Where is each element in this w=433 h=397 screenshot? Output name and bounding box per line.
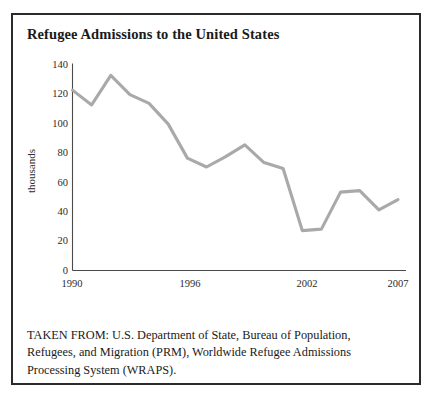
x-tick-label: 1996	[180, 278, 201, 289]
source-attribution: TAKEN FROM: U.S. Department of State, Bu…	[27, 327, 409, 379]
source-line: TAKEN FROM: U.S. Department of State, Bu…	[27, 327, 409, 344]
source-line: Refugees, and Migration (PRM), Worldwide…	[27, 344, 409, 361]
chart-svg: 140 120 100 80 60 40 20 0 thousands 1990…	[13, 53, 419, 318]
y-axis-title: thousands	[25, 149, 37, 193]
y-tick-label: 100	[52, 118, 68, 129]
y-tick-label: 60	[58, 177, 69, 188]
y-tick-label: 40	[58, 206, 69, 217]
page-title: Refugee Admissions to the United States	[27, 26, 279, 43]
y-tick-label: 120	[52, 88, 68, 99]
line-chart: 140 120 100 80 60 40 20 0 thousands 1990…	[13, 53, 419, 318]
y-tick-label: 80	[58, 147, 69, 158]
source-line: Processing System (WRAPS).	[27, 362, 409, 379]
data-series-line	[73, 75, 399, 230]
y-tick-label: 20	[58, 235, 69, 246]
y-tick-label: 0	[63, 265, 68, 276]
x-tick-label: 2002	[297, 278, 318, 289]
x-axis-tick-labels: 1990 1996 2002 2007	[62, 278, 409, 289]
y-tick-label: 140	[52, 59, 68, 70]
x-tick-label: 2007	[388, 278, 409, 289]
x-tick-label: 1990	[62, 278, 83, 289]
figure-frame: Refugee Admissions to the United States …	[11, 13, 421, 385]
y-axis-tick-labels: 140 120 100 80 60 40 20 0	[52, 59, 68, 276]
